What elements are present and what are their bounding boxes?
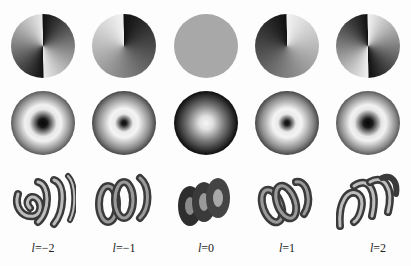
- phase-map-l-0: [174, 14, 238, 78]
- label-l-minus-2: l=−2: [13, 241, 73, 256]
- helical-wavefront-l-1: [256, 172, 320, 236]
- label-l-0: l=0: [176, 241, 236, 256]
- helical-wavefront-l-0: [172, 172, 236, 236]
- phase-map-l-minus-2: [11, 14, 75, 78]
- helical-wavefront-l-minus-1: [92, 172, 156, 236]
- label-l-2: l=2: [348, 241, 408, 256]
- label-value: =1: [282, 241, 295, 255]
- intensity-ring-l-2: [336, 91, 400, 155]
- label-value: =−1: [116, 241, 136, 255]
- intensity-ring-l-0: [174, 91, 238, 155]
- helical-wavefront-l-2: [336, 172, 400, 236]
- phase-map-l-2: [336, 14, 400, 78]
- label-l-minus-1: l=−1: [94, 241, 154, 256]
- helical-wavefront-l-minus-2: [12, 172, 76, 236]
- label-value: =2: [373, 241, 386, 255]
- intensity-ring-l-minus-2: [11, 91, 75, 155]
- phase-map-l-minus-1: [92, 14, 156, 78]
- label-l-1: l=1: [257, 241, 317, 256]
- phase-map-l-1: [255, 14, 319, 78]
- intensity-ring-l-minus-1: [92, 91, 156, 155]
- label-value: =−2: [35, 241, 55, 255]
- intensity-ring-l-1: [255, 91, 319, 155]
- label-value: =0: [201, 241, 214, 255]
